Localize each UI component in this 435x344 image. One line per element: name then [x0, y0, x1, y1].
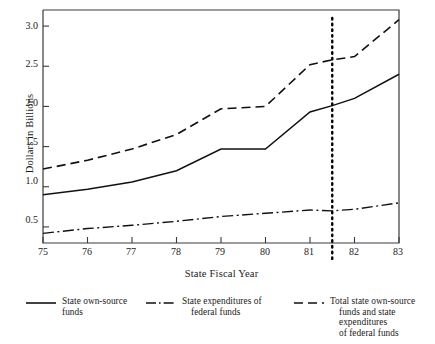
legend-item-own-source: State own-sourcefunds — [26, 296, 138, 317]
legend-sample-dashed — [294, 297, 324, 309]
plot-area — [0, 0, 435, 300]
series-line-total — [43, 20, 399, 169]
legend-item-total: Total state own-sourcefunds and state ex… — [294, 296, 434, 338]
series-line-own-source — [43, 74, 399, 195]
axis-frame — [43, 10, 399, 243]
legend-label-total: Total state own-sourcefunds and state ex… — [330, 296, 434, 338]
legend-label-own-source: State own-sourcefunds — [62, 296, 127, 317]
figure: Dollars in Billions State Fiscal Year 3.… — [0, 0, 435, 344]
series-line-federal — [43, 203, 399, 234]
legend-sample-dash-dot — [146, 297, 176, 309]
legend-label-federal: State expenditures offederal funds — [182, 296, 262, 317]
x-tick-marks — [43, 237, 399, 243]
legend: State own-sourcefunds State expenditures… — [0, 296, 435, 344]
y-tick-marks — [43, 26, 49, 227]
legend-sample-solid — [26, 297, 56, 309]
legend-item-federal: State expenditures offederal funds — [146, 296, 286, 317]
